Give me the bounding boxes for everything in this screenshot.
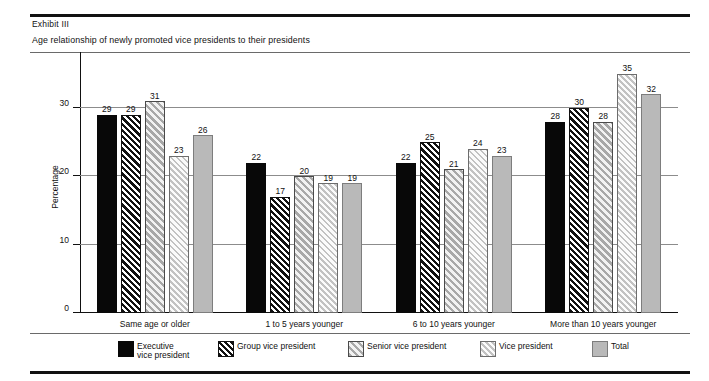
- bar: 29: [121, 115, 141, 313]
- legend-swatch: [480, 341, 496, 357]
- legend-item: Vice president: [480, 341, 553, 357]
- bar-value-label: 30: [575, 98, 584, 107]
- y-axis-tick: [73, 244, 80, 245]
- bar: 22: [396, 163, 416, 313]
- legend-label: Total: [611, 341, 629, 351]
- bar: 20: [294, 176, 314, 313]
- x-axis-category-label: 1 to 5 years younger: [266, 319, 344, 329]
- bar-value-label: 23: [497, 146, 506, 155]
- bottom-rule: [30, 371, 690, 374]
- bar: 19: [318, 183, 338, 313]
- bar: 17: [270, 197, 290, 313]
- bar: 32: [641, 94, 661, 313]
- legend-label: Executive vice president: [137, 341, 189, 361]
- bar-value-label: 17: [276, 187, 285, 196]
- bar-group: 22172019191 to 5 years younger: [246, 60, 362, 313]
- bar-value-label: 28: [551, 112, 560, 121]
- chart-legend: Executive vice presidentGroup vice presi…: [0, 341, 709, 381]
- bar: 21: [444, 169, 464, 313]
- bar-group: 22252124236 to 10 years younger: [396, 60, 512, 313]
- y-axis-tick: [73, 175, 80, 176]
- y-axis-tick-label: 0: [64, 303, 69, 313]
- bar-value-label: 23: [174, 146, 183, 155]
- exhibit-subtitle: Age relationship of newly promoted vice …: [32, 35, 310, 45]
- y-axis-tick-label: 20: [60, 166, 69, 176]
- bar: 30: [569, 108, 589, 313]
- bar: 24: [468, 149, 488, 313]
- legend-swatch: [118, 341, 134, 357]
- bar: 22: [246, 163, 266, 313]
- legend-item: Group vice president: [218, 341, 315, 357]
- top-rule: [30, 14, 690, 17]
- bar: 35: [617, 74, 637, 313]
- bar-value-label: 31: [150, 92, 159, 101]
- legend-divider-rule: [30, 333, 690, 334]
- chart-plot-area: Percentage 0102030 2929312326Same age or…: [80, 60, 678, 313]
- bar-value-label: 35: [623, 64, 632, 73]
- bar-value-label: 19: [324, 174, 333, 183]
- bar: 28: [593, 122, 613, 313]
- header-divider-rule: [30, 52, 690, 53]
- legend-label: Vice president: [499, 341, 553, 351]
- bar-value-label: 25: [425, 133, 434, 142]
- y-axis-tick: [73, 312, 80, 313]
- bar: 23: [492, 156, 512, 313]
- bar-value-label: 22: [401, 153, 410, 162]
- bar: 25: [420, 142, 440, 313]
- x-axis-category-label: 6 to 10 years younger: [413, 319, 495, 329]
- bar: 26: [193, 135, 213, 313]
- legend-swatch: [218, 341, 234, 357]
- legend-item: Total: [592, 341, 629, 357]
- bar-value-label: 20: [300, 167, 309, 176]
- legend-item: Executive vice president: [118, 341, 189, 361]
- legend-label: Senior vice president: [367, 341, 446, 351]
- legend-item: Senior vice president: [348, 341, 446, 357]
- y-axis-tick-label: 30: [60, 98, 69, 108]
- bar-group: 2830283532More than 10 years younger: [545, 60, 661, 313]
- bar-value-label: 29: [102, 105, 111, 114]
- legend-swatch: [348, 341, 364, 357]
- exhibit-label: Exhibit III: [32, 19, 69, 29]
- bar-value-label: 29: [126, 105, 135, 114]
- x-axis-category-label: More than 10 years younger: [550, 319, 656, 329]
- bar-value-label: 28: [599, 112, 608, 121]
- exhibit-figure: Exhibit III Age relationship of newly pr…: [0, 0, 709, 381]
- bar-value-label: 26: [198, 126, 207, 135]
- y-axis-tick: [73, 107, 80, 108]
- bar: 29: [97, 115, 117, 313]
- x-axis-category-label: Same age or older: [120, 319, 190, 329]
- bar: 23: [169, 156, 189, 313]
- bar-value-label: 19: [348, 174, 357, 183]
- bar: 28: [545, 122, 565, 313]
- bar-group: 2929312326Same age or older: [97, 60, 213, 313]
- y-axis-title: Percentage: [50, 165, 60, 208]
- bar-value-label: 22: [252, 153, 261, 162]
- legend-swatch: [592, 341, 608, 357]
- bar: 19: [342, 183, 362, 313]
- bar-value-label: 24: [473, 139, 482, 148]
- y-axis-line: [80, 52, 81, 313]
- y-axis-tick-label: 10: [60, 235, 69, 245]
- bar-value-label: 32: [647, 85, 656, 94]
- bar-value-label: 21: [449, 160, 458, 169]
- legend-label: Group vice president: [237, 341, 315, 351]
- bar: 31: [145, 101, 165, 313]
